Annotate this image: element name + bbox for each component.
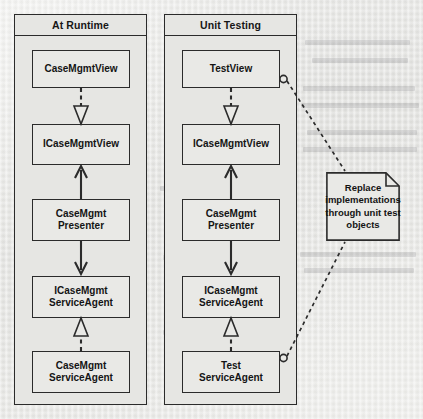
ghost-text xyxy=(303,147,417,152)
package-header-unit-testing: Unit Testing xyxy=(165,15,296,36)
ghost-text xyxy=(305,40,410,45)
class-box-case-mgmt-presenter[interactable]: CaseMgmt Presenter xyxy=(32,199,130,241)
ghost-text xyxy=(301,103,419,108)
class-box-i-case-mgmt-service-agent-2[interactable]: ICaseMgmt ServiceAgent xyxy=(182,276,280,318)
ghost-text xyxy=(300,252,416,257)
class-box-test-view[interactable]: TestView xyxy=(182,50,280,88)
class-label: ICaseMgmt ServiceAgent xyxy=(49,285,113,310)
note-replace-implementations[interactable]: Replace implementations through unit tes… xyxy=(326,172,400,241)
class-box-i-case-mgmt-view-2[interactable]: ICaseMgmtView xyxy=(182,124,280,165)
class-label: TestView xyxy=(210,63,252,76)
class-label: CaseMgmt ServiceAgent xyxy=(49,360,113,385)
class-label: CaseMgmtView xyxy=(44,63,117,76)
package-title: At Runtime xyxy=(52,19,109,31)
ghost-text xyxy=(307,130,417,135)
package-header-at-runtime: At Runtime xyxy=(15,15,146,36)
package-title: Unit Testing xyxy=(200,19,261,31)
class-label: ICaseMgmtView xyxy=(193,138,269,151)
class-label: CaseMgmt Presenter xyxy=(206,208,257,233)
class-label: Test ServiceAgent xyxy=(199,360,263,385)
class-box-i-case-mgmt-service-agent[interactable]: ICaseMgmt ServiceAgent xyxy=(32,276,130,318)
class-box-case-mgmt-service-agent[interactable]: CaseMgmt ServiceAgent xyxy=(32,351,130,393)
diagram-canvas: At Runtime CaseMgmtView ICaseMgmtView Ca… xyxy=(0,0,423,419)
class-label: ICaseMgmt ServiceAgent xyxy=(199,285,263,310)
class-box-case-mgmt-presenter-2[interactable]: CaseMgmt Presenter xyxy=(182,199,280,241)
class-box-i-case-mgmt-view[interactable]: ICaseMgmtView xyxy=(32,124,130,165)
note-label: Replace implementations through unit tes… xyxy=(321,182,405,232)
class-box-test-service-agent[interactable]: Test ServiceAgent xyxy=(182,351,280,393)
ghost-text xyxy=(312,58,408,63)
class-label: CaseMgmt Presenter xyxy=(56,208,107,233)
ghost-text xyxy=(303,86,415,91)
class-box-case-mgmt-view[interactable]: CaseMgmtView xyxy=(32,50,130,88)
ghost-text xyxy=(304,268,414,273)
class-label: ICaseMgmtView xyxy=(43,138,119,151)
